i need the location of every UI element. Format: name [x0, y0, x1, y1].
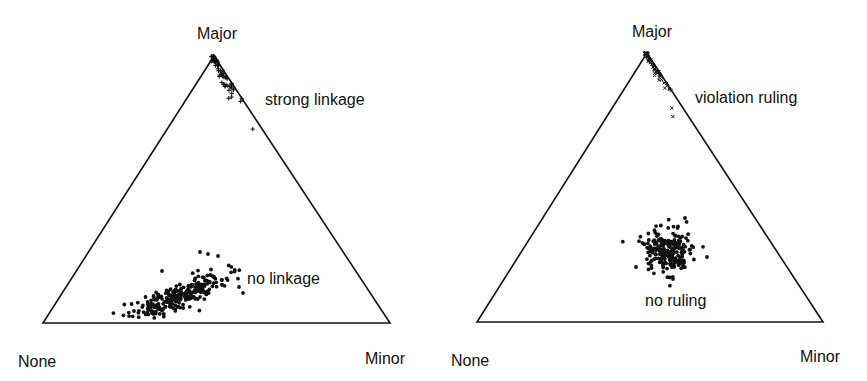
- left-vertex-minor: Minor: [365, 350, 406, 367]
- left-ternary-plot: Major None Minor strong linkage no linka…: [18, 25, 406, 370]
- strong-linkage-points: [209, 54, 255, 131]
- left-vertex-major: Major: [197, 25, 238, 42]
- no-linkage-points: [112, 250, 245, 320]
- violation-ruling-points: [643, 51, 674, 118]
- left-label-strong-linkage: strong linkage: [265, 91, 365, 108]
- right-label-no-ruling: no ruling: [645, 292, 706, 309]
- left-label-no-linkage: no linkage: [247, 270, 320, 287]
- ternary-figure: Major None Minor strong linkage no linka…: [0, 0, 867, 381]
- right-label-violation-ruling: violation ruling: [695, 89, 797, 106]
- right-ternary-plot: Major None Minor violation ruling no rul…: [451, 23, 841, 369]
- right-vertex-minor: Minor: [800, 348, 841, 365]
- left-vertex-none: None: [18, 353, 56, 370]
- no-ruling-points: [621, 216, 709, 288]
- right-vertex-major: Major: [632, 23, 673, 40]
- right-vertex-none: None: [451, 352, 489, 369]
